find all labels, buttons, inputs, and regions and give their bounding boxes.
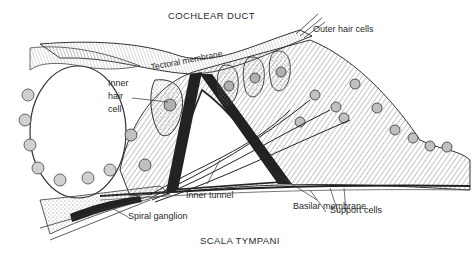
- label-inner-hair-cell-line1: Inner: [108, 78, 129, 89]
- label-inner-tunnel: Inner tunnel: [186, 190, 234, 201]
- label-inner-hair-cell-line3: cell: [108, 104, 129, 115]
- label-basilar-membrane: Basilar membrane: [293, 201, 366, 212]
- label-inner-hair-cell-line2: hair: [108, 91, 129, 102]
- region-label-scala-tympani: SCALA TYMPANI: [200, 235, 280, 246]
- cochlea-diagram: [0, 0, 476, 264]
- region-label-cochlear-duct: COCHLEAR DUCT: [168, 10, 255, 21]
- label-spiral-ganglion: Spiral ganglion: [128, 211, 188, 222]
- label-outer-hair-cells: Outer hair cells: [313, 24, 374, 35]
- label-inner-hair-cell: Inner hair cell: [108, 78, 129, 115]
